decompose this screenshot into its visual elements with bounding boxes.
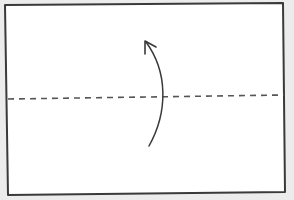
origami-diagram: [0, 0, 294, 200]
